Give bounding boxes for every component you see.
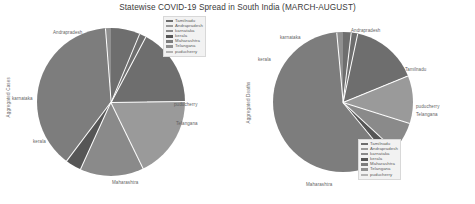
y-axis-label-deaths: Aggregated Deaths <box>246 81 251 125</box>
legend-swatch-icon <box>361 143 368 146</box>
legend-swatch-icon <box>166 20 173 23</box>
slice-label-andrapradesh: Andrapradesh <box>53 30 82 35</box>
slice-label-kerala: kerala <box>33 139 46 144</box>
slice-label-puducherry: puducherry <box>416 104 440 109</box>
slice-label-puducherry: puducherry <box>174 102 198 107</box>
legend-item-label: puducherry <box>370 173 392 178</box>
legend-cases[interactable]: TamilnaduAndrapradeshkarnatakakeralaMaha… <box>163 16 206 57</box>
y-axis-label-cases: Aggregated Cases <box>6 78 11 118</box>
legend-swatch-icon <box>166 51 173 54</box>
slice-label-telangana: Telangana <box>176 121 198 126</box>
legend-item-label: puducherry <box>175 50 197 55</box>
legend-swatch-icon <box>166 40 173 43</box>
legend-swatch-icon <box>361 153 368 156</box>
legend-item-puducherry[interactable]: puducherry <box>166 50 203 55</box>
slice-label-tamilnadu: Tamilnadu <box>405 67 426 72</box>
legend-swatch-icon <box>166 30 173 33</box>
slice-label-maharashtra: Maharashtra <box>112 180 138 185</box>
legend-swatch-icon <box>166 25 173 28</box>
slice-label-karnataka: karnataka <box>280 35 301 40</box>
legend-item-puducherry[interactable]: puducherry <box>361 173 398 178</box>
legend-swatch-icon <box>361 168 368 171</box>
legend-swatch-icon <box>361 174 368 177</box>
chart-panel-deaths: Aggregated Deaths Andrapradesh karnataka… <box>238 0 475 204</box>
slice-label-maharashtra: Maharashtra <box>306 182 332 187</box>
legend-swatch-icon <box>166 45 173 48</box>
slice-label-kerala: kerala <box>258 57 271 62</box>
slice-label-andrapradesh: Andrapradesh <box>351 28 380 33</box>
legend-swatch-icon <box>361 158 368 161</box>
legend-swatch-icon <box>166 35 173 38</box>
chart-panel-cases: Aggregated Cases Andrapradesh karnataka … <box>0 0 238 204</box>
figure-canvas: Statewise COVID-19 Spread in South India… <box>0 0 475 204</box>
slice-label-telangana: Telangana <box>416 112 438 117</box>
legend-deaths[interactable]: TamilnaduAndrapradeshkarnatakakeralaMaha… <box>358 139 401 180</box>
slice-label-karnataka: karnataka <box>12 96 33 101</box>
legend-swatch-icon <box>361 163 368 166</box>
legend-swatch-icon <box>361 148 368 151</box>
